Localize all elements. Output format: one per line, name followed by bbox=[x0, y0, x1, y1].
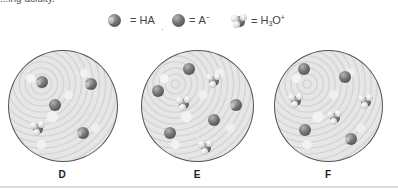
hydronium-molecule-icon bbox=[29, 120, 45, 136]
anion-molecule-icon bbox=[297, 122, 313, 138]
anion-molecule-icon bbox=[337, 69, 353, 85]
anion-molecule-icon bbox=[296, 61, 312, 77]
caption-fragment: ...ing acidity. bbox=[0, 0, 55, 4]
hydronium-molecule-icon bbox=[357, 93, 373, 109]
divider bbox=[0, 186, 398, 188]
hydronium-molecule-icon bbox=[230, 13, 248, 28]
legend-item-hydronium: = H3O+ bbox=[230, 13, 285, 28]
ha-molecule-icon bbox=[74, 125, 90, 141]
beaker-label-d: D bbox=[52, 169, 72, 180]
hydronium-molecule-icon bbox=[326, 109, 342, 125]
legend-equals: = bbox=[251, 15, 257, 27]
ha-molecule-icon bbox=[33, 74, 49, 90]
stray-mark bbox=[162, 29, 163, 30]
hydronium-molecule-icon bbox=[197, 139, 213, 155]
legend-label-ha: HA bbox=[139, 14, 154, 26]
anion-molecule-icon bbox=[171, 13, 186, 27]
anion-molecule-icon bbox=[47, 97, 63, 113]
hydronium-molecule-icon bbox=[175, 95, 191, 111]
legend: = HA = A− = H3O+ bbox=[0, 13, 398, 31]
ha-molecule-icon bbox=[107, 13, 127, 27]
beaker-d bbox=[8, 50, 118, 162]
ha-molecule-icon bbox=[342, 131, 358, 147]
anion-molecule-icon bbox=[162, 125, 178, 141]
beaker-label-f: F bbox=[318, 169, 338, 180]
legend-equals: = bbox=[189, 14, 195, 26]
legend-label-anion: A− bbox=[198, 14, 209, 26]
legend-equals: = bbox=[130, 14, 136, 26]
anion-molecule-icon bbox=[181, 61, 197, 77]
hydronium-molecule-icon bbox=[287, 92, 303, 108]
anion-molecule-icon bbox=[206, 112, 222, 128]
ha-molecule-icon bbox=[227, 97, 243, 113]
legend-item-anion: = A− bbox=[171, 13, 210, 27]
legend-label-hydronium: H3O+ bbox=[260, 14, 285, 27]
anion-molecule-icon bbox=[150, 83, 166, 99]
hydronium-molecule-icon bbox=[205, 72, 221, 88]
ha-molecule-icon bbox=[82, 76, 98, 92]
beaker-label-e: E bbox=[187, 169, 207, 180]
legend-item-ha: = HA bbox=[107, 13, 155, 27]
